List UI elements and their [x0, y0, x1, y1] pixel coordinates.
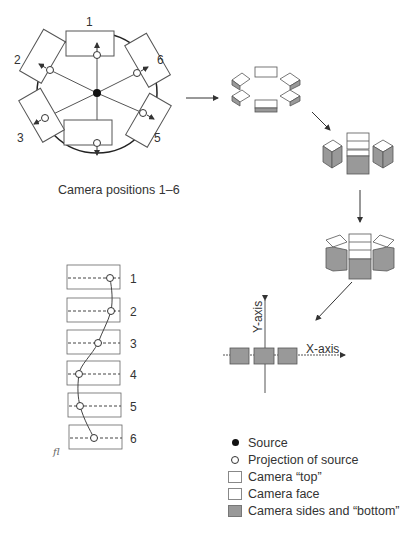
legend-item-projection: Projection of source	[228, 451, 399, 468]
white-box-icon	[228, 471, 242, 483]
open-circle-icon	[228, 454, 242, 466]
camera-label-1: 1	[86, 15, 93, 29]
caption-camera-positions: Camera positions 1–6	[58, 183, 180, 197]
legend-label: Projection of source	[248, 453, 358, 467]
strip-label-5: 5	[130, 400, 137, 414]
camera-ring-top-view: 1 2 3 5 6	[14, 15, 171, 155]
camera-ring-3d-side	[326, 234, 394, 279]
flow-arrow-2	[312, 112, 330, 130]
camera-label-5: 5	[154, 131, 161, 145]
axes-view: X-axis Y-axis	[223, 300, 345, 393]
legend-label: Camera “top”	[248, 470, 322, 484]
legend-item-camera-face: Camera face	[228, 485, 399, 502]
legend-label: Camera face	[248, 487, 320, 501]
strip-label-1: 1	[130, 272, 137, 286]
camera-ring-3d-flat	[232, 67, 300, 112]
strip-label-3: 3	[130, 337, 137, 351]
legend-label: Camera sides and “bottom”	[248, 504, 399, 518]
legend-item-source: Source	[228, 434, 399, 451]
legend-item-camera-top: Camera “top”	[228, 468, 399, 485]
legend-label: Source	[248, 436, 288, 450]
gray-box-icon	[228, 505, 242, 517]
white-box-icon	[228, 488, 242, 500]
strip-label-4: 4	[130, 368, 137, 382]
camera-ring-3d-tilted	[323, 133, 393, 174]
source-dot	[93, 89, 101, 97]
filled-dot-icon	[228, 437, 242, 449]
legend: Source Projection of source Camera “top”…	[228, 434, 399, 519]
camera-label-6: 6	[157, 53, 164, 67]
x-axis-label: X-axis	[306, 342, 339, 356]
strip-label-6: 6	[130, 432, 137, 446]
y-axis-label: Y-axis	[251, 301, 265, 333]
camera-label-2: 2	[14, 53, 21, 67]
camera-label-3: 3	[17, 131, 24, 145]
projection-strip: 1 2 3 4 5 6 fl	[52, 265, 137, 457]
flow-arrow-4	[316, 282, 352, 320]
artist-initials: fl	[52, 446, 60, 457]
legend-item-camera-sides: Camera sides and “bottom”	[228, 502, 399, 519]
strip-label-2: 2	[130, 305, 137, 319]
